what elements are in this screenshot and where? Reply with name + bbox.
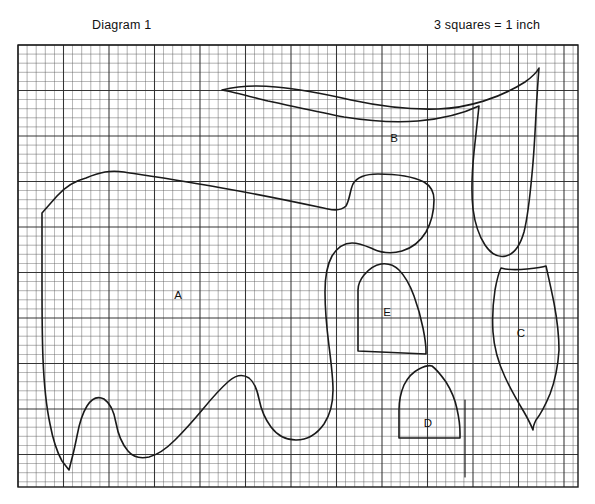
region-label-d: D bbox=[424, 417, 432, 429]
region-label-a: A bbox=[174, 289, 182, 301]
diagram-page: Diagram 1 3 squares = 1 inch ABCDE bbox=[0, 0, 595, 504]
region-label-e: E bbox=[383, 306, 391, 318]
grid-lines-group bbox=[18, 45, 578, 487]
region-label-b: B bbox=[390, 132, 398, 144]
grid-background bbox=[18, 45, 578, 487]
region-label-c: C bbox=[517, 327, 525, 339]
graph-paper-figure: ABCDE bbox=[0, 0, 595, 504]
